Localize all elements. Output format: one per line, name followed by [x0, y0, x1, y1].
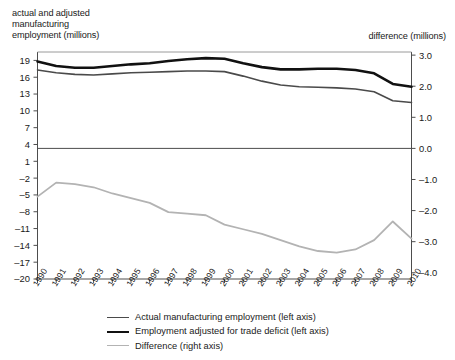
x-axis-year-label: 1996: [143, 266, 162, 288]
y-axis-tick-label: –8: [20, 206, 30, 217]
x-axis-year-label: 2004: [293, 266, 312, 288]
x-axis-year-label: 1998: [180, 266, 199, 288]
chart-plot: 19161310741–2–5–8–11–14–17–203.02.01.00.…: [0, 0, 455, 360]
x-axis-year-label: 1995: [124, 266, 143, 288]
x-axis-year-label: 1993: [87, 266, 106, 288]
y-axis-tick-label: 16: [20, 72, 30, 83]
legend-label-adjusted: Employment adjusted for trade deficit (l…: [135, 324, 329, 338]
y-axis-tick-label: 4: [25, 139, 30, 150]
chart-figure: actual and adjusted manufacturing employ…: [0, 0, 455, 360]
y-axis-tick-label: –11: [15, 223, 30, 234]
y-axis-tick-label: –14: [14, 240, 30, 251]
x-axis-year-label: 2001: [236, 266, 255, 288]
x-axis-year-label: 2008: [367, 266, 386, 288]
series-line: [38, 58, 412, 87]
y-axis-tick-label: 13: [20, 88, 30, 99]
x-axis-year-label: 2005: [311, 266, 330, 288]
y2-axis-tick-label: 1.0: [419, 112, 432, 123]
x-axis-year-label: 2000: [218, 266, 237, 288]
y-axis-tick-label: –20: [14, 273, 30, 284]
x-axis-year-label: 1999: [199, 266, 218, 288]
x-axis-year-label: 2002: [255, 266, 274, 288]
y2-axis-tick-label: –2.0: [419, 205, 437, 216]
legend-label-difference: Difference (right axis): [135, 339, 223, 353]
x-axis-year-label: 1994: [106, 266, 125, 288]
legend-swatch-actual-icon: [107, 317, 129, 318]
series-line: [38, 183, 412, 253]
legend-label-actual: Actual manufacturing employment (left ax…: [135, 310, 316, 324]
legend-swatch-difference-icon: [107, 345, 129, 346]
y-axis-tick-label: 19: [20, 55, 30, 66]
legend-swatch-adjusted-icon: [107, 331, 129, 333]
y2-axis-tick-label: –3.0: [419, 236, 437, 247]
y2-axis-tick-label: –1.0: [419, 174, 437, 185]
y2-axis-tick-label: 2.0: [419, 81, 432, 92]
y-axis-tick-label: 1: [25, 156, 30, 167]
x-axis-year-label: 2007: [349, 266, 368, 288]
x-axis-year-label: 2006: [330, 266, 349, 288]
legend-item-actual: Actual manufacturing employment (left ax…: [107, 310, 329, 324]
y-axis-tick-label: –5: [20, 189, 30, 200]
y-axis-tick-label: 7: [25, 122, 30, 133]
y-axis-tick-label: –17: [14, 257, 30, 268]
x-axis-year-label: 1992: [68, 266, 87, 288]
x-axis-year-label: 1991: [49, 266, 68, 288]
y2-axis-tick-label: 3.0: [419, 50, 432, 61]
legend-item-adjusted: Employment adjusted for trade deficit (l…: [107, 324, 329, 338]
y-axis-tick-label: 10: [20, 105, 30, 116]
x-axis-year-label: 1990: [31, 266, 50, 288]
chart-legend: Actual manufacturing employment (left ax…: [107, 310, 329, 353]
y2-axis-tick-label: 0.0: [419, 143, 432, 154]
legend-item-difference: Difference (right axis): [107, 339, 329, 353]
series-line: [38, 70, 412, 103]
y-axis-tick-label: –2: [20, 173, 30, 184]
x-axis-year-label: 1997: [162, 266, 181, 288]
x-axis-year-label: 2003: [274, 266, 293, 288]
x-axis-year-label: 2009: [386, 266, 405, 288]
